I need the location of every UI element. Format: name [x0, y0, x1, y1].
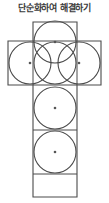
- center-dot-cell-lower-middle: [54, 107, 57, 110]
- center-dot-cell-right: [78, 62, 81, 65]
- center-dot-cell-left: [29, 62, 32, 65]
- figure-page: 단순화하여 해결하기: [0, 0, 109, 203]
- center-dot-cell-top: [54, 41, 57, 44]
- cross-figure: [0, 0, 109, 203]
- cross-outline: [8, 22, 101, 197]
- center-dot-cell-bottom: [54, 151, 57, 154]
